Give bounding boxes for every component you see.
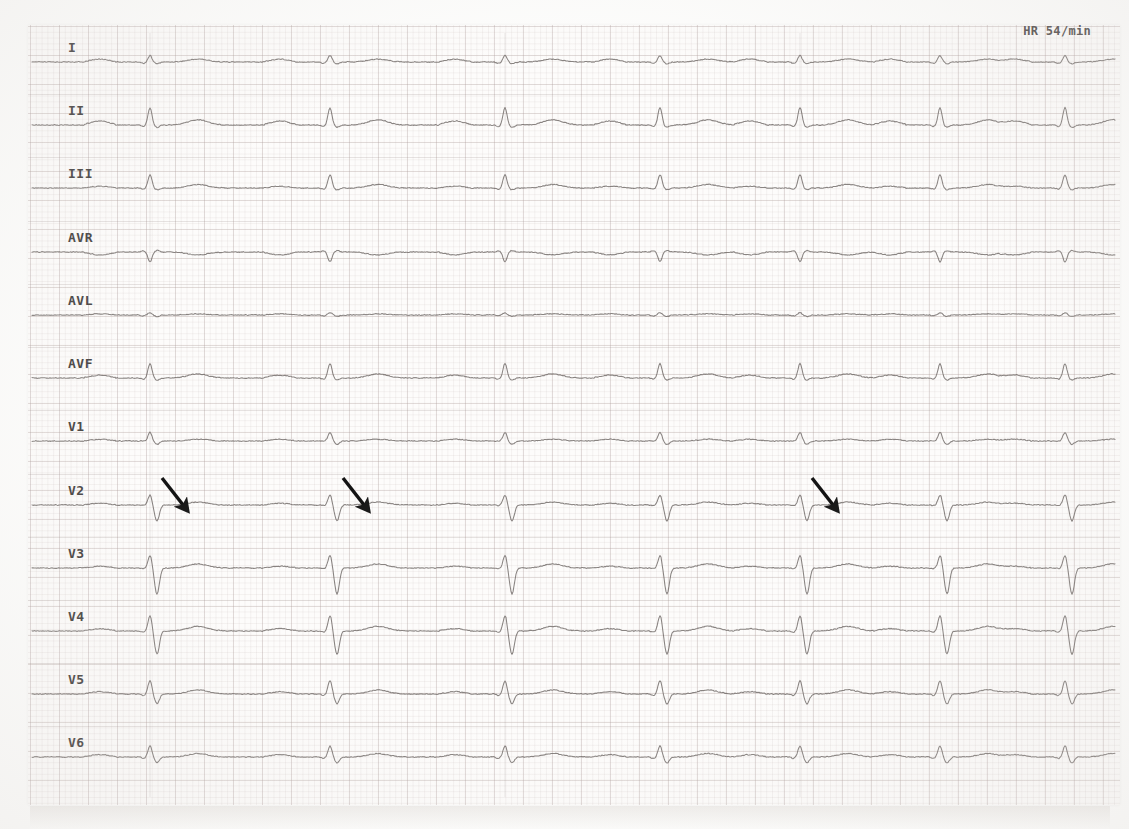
- ecg-paper: IIIIIIAVRAVLAVFV1V2V3V4V5V6: [28, 25, 1120, 805]
- paper-bottom-edge: [30, 806, 1110, 828]
- trace-v1: [32, 432, 1115, 445]
- lead-label-avl: AVL: [68, 293, 93, 308]
- trace-iii: [32, 174, 1115, 190]
- lead-label-v2: V2: [68, 483, 85, 498]
- lead-label-avf: AVF: [68, 356, 93, 371]
- lead-label-v3: V3: [68, 546, 85, 561]
- lead-label-avr: AVR: [68, 230, 93, 245]
- lead-label-v5: V5: [68, 672, 85, 687]
- trace-avr: [32, 250, 1115, 262]
- lead-label-i: I: [68, 40, 76, 55]
- lead-label-v6: V6: [68, 735, 85, 750]
- trace-avl: [32, 313, 1115, 317]
- ecg-traces: [28, 25, 1120, 805]
- heart-rate-label: HR 54/min: [1023, 24, 1091, 38]
- ecg-screenshot: IIIIIIAVRAVLAVFV1V2V3V4V5V6 HR 54/min: [0, 0, 1129, 829]
- lead-label-ii: II: [68, 103, 85, 118]
- lead-label-v4: V4: [68, 609, 85, 624]
- trace-ii: [32, 107, 1115, 128]
- trace-v4: [32, 616, 1115, 655]
- trace-v5: [32, 680, 1115, 704]
- trace-avf: [32, 363, 1115, 380]
- trace-v6: [32, 746, 1115, 764]
- lead-label-v1: V1: [68, 419, 85, 434]
- trace-v3: [32, 555, 1115, 594]
- lead-label-iii: III: [68, 166, 93, 181]
- trace-i: [32, 55, 1115, 64]
- trace-v2: [32, 495, 1115, 522]
